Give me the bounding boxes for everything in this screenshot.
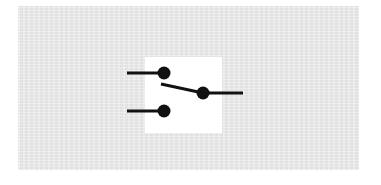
diagram-canvas xyxy=(0,0,381,185)
common-terminal-dot xyxy=(197,87,210,100)
top-terminal-dot xyxy=(158,67,171,80)
spdt-switch-symbol xyxy=(0,0,381,185)
bottom-terminal-dot xyxy=(158,105,171,118)
